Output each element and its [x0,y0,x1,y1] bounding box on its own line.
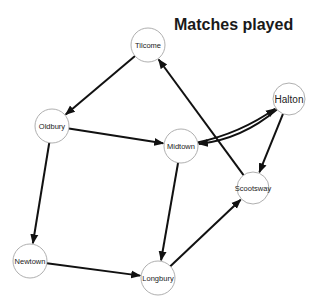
node-label: Longbury [142,274,174,283]
node-newtown: Newtown [13,244,47,278]
edge-newtown-to-longbury [47,263,140,275]
edge-midtown-to-longbury [161,163,178,261]
edges-layer [33,56,283,276]
graph-title: Matches played [174,16,293,33]
node-label: Midtown [167,142,195,151]
edge-longbury-to-scootsway [170,200,240,267]
edge-midtown-to-halton [198,109,275,143]
node-label: Tilcome [135,41,161,50]
nodes-layer: TilcomeOldburyMidtownHaltonScootswayNewt… [13,28,305,295]
node-label: Halton [275,94,304,105]
node-longbury: Longbury [141,261,175,295]
edge-tilcome-to-oldbury [66,56,135,114]
node-scootsway: Scootsway [235,172,272,204]
node-label: Scootsway [235,184,272,193]
node-oldbury: Oldbury [35,109,69,143]
node-label: Newtown [15,257,46,266]
edge-oldbury-to-newtown [33,143,49,243]
node-midtown: Midtown [164,129,198,163]
edge-halton-to-scootsway [259,114,283,172]
edge-oldbury-to-midtown [69,129,163,144]
node-halton: Halton [273,83,305,115]
network-graph: Matches played TilcomeOldburyMidtownHalt… [0,0,319,307]
node-label: Oldbury [39,122,66,131]
node-tilcome: Tilcome [131,28,165,62]
